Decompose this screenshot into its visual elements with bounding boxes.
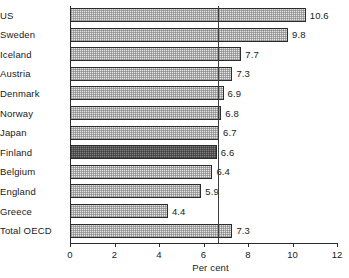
category-label: Denmark — [0, 88, 64, 99]
bar-value-label: 6.6 — [221, 147, 235, 158]
bar-value-label: 7.3 — [236, 68, 250, 79]
bar-value-label: 5.9 — [205, 186, 219, 197]
category-label: Norway — [0, 108, 64, 119]
x-axis-tick — [115, 243, 116, 247]
x-axis-tick — [204, 243, 205, 247]
x-axis-tick-label: 2 — [112, 249, 117, 260]
bar — [70, 106, 221, 120]
category-label: Iceland — [0, 49, 64, 60]
category-label: Greece — [0, 206, 64, 217]
bar-value-label: 6.7 — [223, 127, 237, 138]
bar-value-label: 9.8 — [292, 29, 306, 40]
x-axis-tick — [248, 243, 249, 247]
bar-value-label: 10.6 — [310, 10, 329, 21]
category-axis-labels: USSwedenIcelandAustriaDenmarkNorwayJapan… — [0, 0, 68, 243]
bar — [70, 86, 224, 100]
bar — [70, 47, 241, 61]
bar — [70, 8, 306, 22]
bar-value-label: 7.7 — [245, 49, 259, 60]
x-axis-tick — [70, 243, 71, 247]
x-axis-tick — [337, 243, 338, 247]
category-label: Total OECD — [0, 225, 64, 236]
bar — [70, 224, 232, 238]
x-axis-tick-label: 4 — [156, 249, 161, 260]
category-label: Sweden — [0, 29, 64, 40]
category-label: Finland — [0, 147, 64, 158]
bar-chart: USSwedenIcelandAustriaDenmarkNorwayJapan… — [0, 0, 349, 278]
bar — [70, 165, 212, 179]
reference-line — [218, 6, 219, 243]
x-axis-tick-label: 12 — [332, 249, 343, 260]
x-axis-tick-label: 8 — [245, 249, 250, 260]
category-label: England — [0, 186, 64, 197]
category-label: Austria — [0, 68, 64, 79]
bar — [70, 28, 288, 42]
x-axis-tick — [159, 243, 160, 247]
bar — [70, 67, 232, 81]
x-axis-tick-label: 10 — [287, 249, 298, 260]
bar — [70, 145, 217, 159]
bar-value-label: 7.3 — [236, 225, 250, 236]
category-label: Belgium — [0, 166, 64, 177]
x-axis-title: Per cent — [192, 262, 229, 273]
x-axis-tick-label: 6 — [201, 249, 206, 260]
bar-value-label: 6.8 — [225, 108, 239, 119]
category-label: US — [0, 10, 64, 21]
x-axis-tick — [293, 243, 294, 247]
bar — [70, 126, 219, 140]
bar — [70, 204, 168, 218]
x-axis-tick-label: 0 — [67, 249, 72, 260]
bar-value-label: 4.4 — [172, 206, 186, 217]
category-label: Japan — [0, 127, 64, 138]
bar — [70, 184, 201, 198]
bar-value-label: 6.9 — [228, 88, 242, 99]
plot-area: 10.69.87.77.36.96.86.76.66.45.94.47.3 — [70, 6, 337, 243]
